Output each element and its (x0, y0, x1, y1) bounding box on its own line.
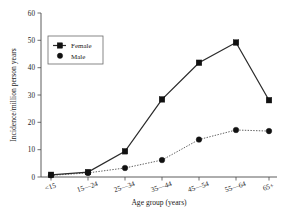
y-tick-label-50: 50 (28, 37, 36, 45)
female-data-point (48, 172, 54, 178)
y-tick-label-60: 60 (28, 10, 36, 18)
legend-label-female: Female (71, 42, 92, 50)
y-axis-title: Incidence/million person years (9, 48, 18, 142)
y-tick-label-10: 10 (28, 146, 36, 154)
legend-label-male: Male (71, 53, 85, 61)
female-data-point (233, 40, 239, 46)
female-data-point (122, 149, 128, 155)
male-data-point (159, 157, 165, 163)
filled-circle-marker-icon (57, 53, 62, 58)
male-data-point (196, 137, 202, 143)
line-chart-canvas: 0 10 20 30 40 50 60 <15 15—24 25 (0, 0, 284, 212)
chart-figure: 0 10 20 30 40 50 60 <15 15—24 25 (0, 0, 284, 212)
male-data-point (266, 128, 272, 134)
y-tick-label-30: 30 (28, 92, 36, 100)
y-tick-label-20: 20 (28, 119, 36, 127)
female-data-point (159, 97, 165, 103)
filled-square-marker-icon (57, 43, 62, 48)
chart-legend: Female Male (48, 36, 103, 64)
female-data-point (85, 169, 91, 175)
male-data-point (233, 127, 239, 133)
y-tick-label-40: 40 (28, 64, 36, 72)
female-data-point (266, 97, 272, 103)
male-data-point (122, 165, 128, 171)
female-data-point (196, 60, 202, 66)
x-axis-title: Age group (years) (131, 198, 187, 207)
y-tick-label-0: 0 (31, 174, 35, 182)
